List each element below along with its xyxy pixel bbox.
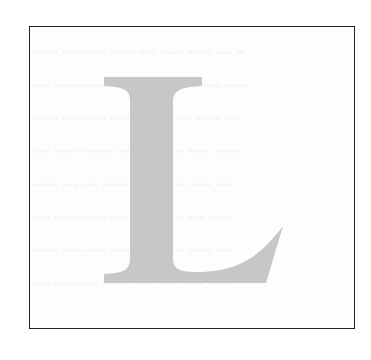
- letter-l-glyph: [0, 0, 371, 360]
